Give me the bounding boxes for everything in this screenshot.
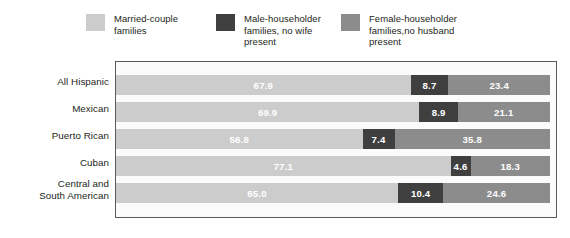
bar-segment-married-couple: 77.1 bbox=[116, 156, 451, 176]
bar-segment-male-householder: 8.9 bbox=[419, 102, 458, 122]
bar-segment-male-householder: 4.6 bbox=[451, 156, 471, 176]
bar-segment-female-householder: 18.3 bbox=[471, 156, 550, 176]
table-row: 65.0 10.4 24.6 bbox=[116, 183, 550, 203]
table-row: 67.9 8.7 23.4 bbox=[116, 75, 550, 95]
category-label-puerto-rican: Puerto Rican bbox=[0, 130, 109, 142]
chart-legend: Married-couple families Male-householder… bbox=[0, 0, 570, 58]
category-label-central-and-south-american: Central and South American bbox=[0, 178, 109, 201]
category-label-all-hispanic: All Hispanic bbox=[0, 76, 109, 88]
category-label-cuban: Cuban bbox=[0, 157, 109, 169]
bar-segment-male-householder: 10.4 bbox=[398, 183, 443, 203]
bar-segment-married-couple: 56.8 bbox=[116, 129, 363, 149]
bar-segment-married-couple: 67.9 bbox=[116, 75, 411, 95]
bar-segment-male-householder: 8.7 bbox=[411, 75, 449, 95]
category-label-mexican: Mexican bbox=[0, 103, 109, 115]
bar-segment-female-householder: 23.4 bbox=[448, 75, 550, 95]
legend-swatch-female-householder-families bbox=[341, 14, 360, 31]
table-row: 69.9 8.9 21.1 bbox=[116, 102, 550, 122]
legend-swatch-male-householder-families bbox=[216, 14, 235, 31]
legend-label-male-householder-families: Male-householder families, no wife prese… bbox=[244, 13, 321, 48]
stacked-bar-chart: Married-couple families Male-householder… bbox=[0, 0, 570, 238]
table-row: 56.8 7.4 35.8 bbox=[116, 129, 550, 149]
bar-segment-female-householder: 24.6 bbox=[443, 183, 550, 203]
bar-segment-married-couple: 65.0 bbox=[116, 183, 398, 203]
bar-segment-married-couple: 69.9 bbox=[116, 102, 419, 122]
legend-item-female-householder-families: Female-householder families,no husband p… bbox=[341, 13, 481, 48]
legend-item-male-householder-families: Male-householder families, no wife prese… bbox=[216, 13, 341, 48]
legend-label-married-couple-families: Married-couple families bbox=[114, 13, 178, 36]
bar-segment-male-householder: 7.4 bbox=[363, 129, 395, 149]
bar-segment-female-householder: 21.1 bbox=[458, 102, 550, 122]
bar-segment-female-householder: 35.8 bbox=[395, 129, 550, 149]
legend-label-female-householder-families: Female-householder families,no husband p… bbox=[369, 13, 457, 48]
table-row: 77.1 4.6 18.3 bbox=[116, 156, 550, 176]
category-axis: All Hispanic Mexican Puerto Rican Cuban … bbox=[0, 61, 109, 218]
legend-item-married-couple-families: Married-couple families bbox=[86, 13, 216, 36]
bar-series-container: 67.9 8.7 23.4 69.9 8.9 21.1 56.8 7.4 35.… bbox=[116, 62, 556, 217]
legend-swatch-married-couple-families bbox=[86, 14, 105, 31]
